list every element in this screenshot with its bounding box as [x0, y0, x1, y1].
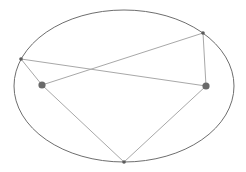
focus-f1 [38, 81, 45, 88]
segment-p-bottom-to-f1 [42, 85, 124, 162]
segment-p-top_right-to-f1 [42, 33, 203, 85]
segment-p-top_right-to-f2 [203, 33, 206, 86]
ellipse-point-p-bottom [122, 160, 126, 164]
ellipse-point-p-left [19, 57, 23, 61]
points-group [19, 31, 209, 164]
ellipse-point-p-top-right [201, 31, 205, 35]
ellipse [14, 10, 234, 162]
segments-group [21, 33, 206, 162]
segment-p-bottom-to-f2 [124, 86, 206, 162]
segment-p-left-to-f2 [21, 59, 206, 86]
ellipse-foci-diagram [0, 0, 246, 172]
segment-p-left-to-f1 [21, 59, 42, 85]
focus-f2 [202, 82, 209, 89]
